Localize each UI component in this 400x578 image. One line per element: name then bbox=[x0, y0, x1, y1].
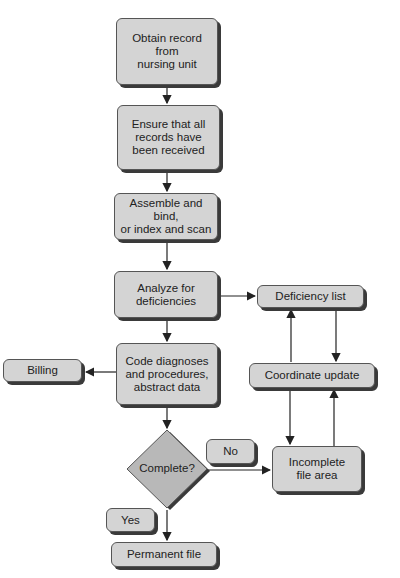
node-analyze-label: Analyze for deficiencies bbox=[136, 282, 196, 308]
node-coordinate-update: Coordinate update bbox=[249, 363, 375, 388]
node-ensure-records-label: Ensure that all records have been receiv… bbox=[132, 118, 206, 157]
node-billing: Billing bbox=[3, 359, 82, 382]
complete-decision-label: Complete? bbox=[127, 462, 207, 474]
label-no-text: No bbox=[223, 445, 238, 458]
node-code-diagnoses-label: Code diagnoses and procedures, abstract … bbox=[125, 355, 208, 394]
node-coordinate-update-label: Coordinate update bbox=[265, 369, 360, 382]
node-obtain-record: Obtain record from nursing unit bbox=[116, 18, 218, 85]
node-ensure-records: Ensure that all records have been receiv… bbox=[117, 105, 220, 170]
node-code-diagnoses: Code diagnoses and procedures, abstract … bbox=[116, 343, 218, 405]
label-yes-text: Yes bbox=[121, 514, 140, 527]
node-obtain-record-label: Obtain record from nursing unit bbox=[132, 32, 202, 71]
node-incomplete-file-area-label: Incomplete file area bbox=[289, 456, 345, 482]
node-deficiency-list: Deficiency list bbox=[257, 285, 364, 308]
flowchart-canvas: Obtain record from nursing unit Ensure t… bbox=[0, 0, 400, 578]
node-analyze: Analyze for deficiencies bbox=[114, 271, 218, 318]
node-assemble-label: Assemble and bind, or index and scan bbox=[119, 197, 213, 236]
node-permanent-file: Permanent file bbox=[111, 542, 217, 567]
node-billing-label: Billing bbox=[27, 364, 58, 377]
node-permanent-file-label: Permanent file bbox=[127, 548, 201, 561]
node-deficiency-list-label: Deficiency list bbox=[275, 290, 345, 303]
label-yes: Yes bbox=[106, 508, 155, 532]
node-incomplete-file-area: Incomplete file area bbox=[272, 446, 362, 492]
node-assemble: Assemble and bind, or index and scan bbox=[114, 193, 218, 240]
label-no: No bbox=[206, 439, 255, 464]
